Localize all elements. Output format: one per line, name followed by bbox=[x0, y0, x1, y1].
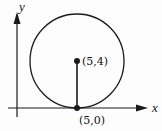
tangent-point-label: (5,0) bbox=[79, 114, 105, 127]
center-point-label: (5,4) bbox=[82, 55, 108, 68]
tangent-point bbox=[74, 105, 80, 111]
center-point bbox=[74, 58, 80, 64]
diagram-canvas: y x (5,4) (5,0) bbox=[0, 0, 162, 131]
y-axis-label: y bbox=[17, 0, 25, 14]
circle-diagram: y x (5,4) (5,0) bbox=[0, 0, 162, 131]
x-axis-label: x bbox=[151, 100, 158, 115]
x-axis-arrow-icon bbox=[136, 105, 148, 112]
y-axis bbox=[14, 12, 21, 117]
